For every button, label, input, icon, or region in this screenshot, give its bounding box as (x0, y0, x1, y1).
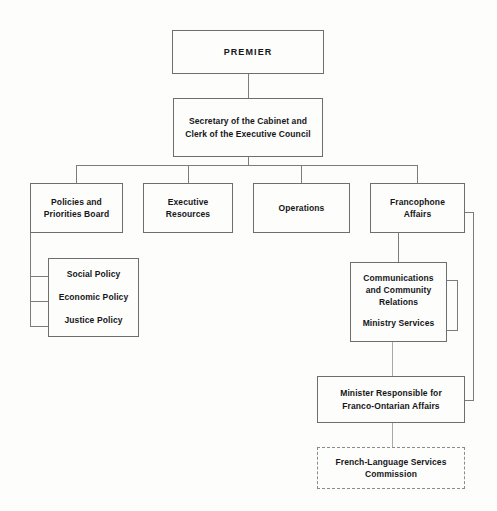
node-social-policy: Social Policy (67, 268, 121, 280)
node-operations-label: Operations (279, 202, 325, 214)
node-policies-and-priorities-board[interactable]: Policies and Priorities Board (30, 183, 123, 233)
organization-chart: PREMIER Secretary of the Cabinet and Cle… (0, 0, 497, 511)
connector-drop-policies-board (76, 165, 77, 183)
node-francophone-affairs[interactable]: Francophone Affairs (370, 183, 465, 233)
connector-stub-economic-policy (30, 301, 49, 302)
node-premier-label: PREMIER (224, 46, 273, 59)
node-economic-policy: Economic Policy (59, 291, 129, 303)
node-ministry-services-label: Ministry Services (351, 317, 446, 329)
node-francophone-affairs-line-1: Francophone (390, 196, 445, 208)
node-executive-resources-line-1: Executive (168, 196, 209, 208)
node-communications-and-ministry-services[interactable]: Communications and Community Relations M… (350, 262, 447, 342)
connector-right-vertical-bus (473, 212, 474, 401)
node-ministry-services-group: Ministry Services (351, 317, 446, 329)
node-minister-line-1: Minister Responsible for (340, 387, 442, 399)
node-justice-policy: Justice Policy (64, 314, 122, 326)
node-communications-line-3: Relations (351, 296, 446, 308)
connector-drop-francophone-affairs (417, 165, 418, 183)
node-secretary-line-1: Secretary of the Cabinet and (189, 115, 307, 127)
node-communications-group: Communications and Community Relations (351, 272, 446, 308)
connector-policies-spine (30, 233, 31, 326)
node-executive-resources-line-2: Resources (166, 208, 210, 220)
node-communications-line-2: and Community (351, 284, 446, 296)
node-french-language-services-commission[interactable]: French-Language Services Commission (317, 447, 465, 489)
connector-drop-executive-resources (188, 165, 189, 183)
connector-minister-to-commission (392, 423, 393, 447)
connector-communications-side-spine (457, 280, 458, 331)
connector-drop-operations (301, 165, 302, 183)
node-policy-committees[interactable]: Social Policy Economic Policy Justice Po… (48, 258, 139, 337)
node-secretary-line-2: Clerk of the Executive Council (185, 128, 310, 140)
connector-stub-justice-policy (30, 326, 49, 327)
connector-communications-to-minister (392, 342, 393, 376)
node-policies-board-line-2: Priorities Board (44, 208, 109, 220)
connector-premier-to-secretary (248, 74, 249, 98)
connector-level2-bus (76, 165, 418, 166)
node-operations[interactable]: Operations (253, 183, 350, 233)
node-francophone-affairs-line-2: Affairs (404, 208, 432, 220)
node-executive-resources[interactable]: Executive Resources (143, 183, 233, 233)
connector-francophone-to-communications (398, 233, 399, 262)
node-minister-responsible[interactable]: Minister Responsible for Franco-Ontarian… (317, 376, 465, 423)
node-premier[interactable]: PREMIER (172, 30, 324, 74)
node-minister-line-2: Franco-Ontarian Affairs (342, 400, 439, 412)
node-commission-line-2: Commission (365, 468, 417, 480)
node-policies-board-line-1: Policies and (51, 196, 102, 208)
node-communications-line-1: Communications (351, 272, 446, 284)
node-secretary-of-cabinet[interactable]: Secretary of the Cabinet and Clerk of th… (173, 98, 323, 157)
connector-bus-to-minister (465, 400, 474, 401)
node-commission-line-1: French-Language Services (335, 456, 446, 468)
connector-stub-social-policy (30, 276, 49, 277)
